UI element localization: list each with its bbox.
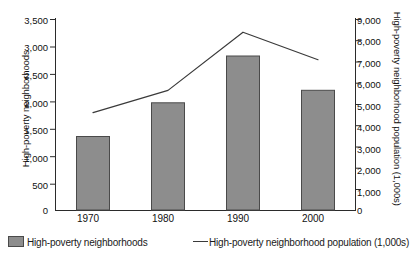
legend-line-icon: [193, 241, 208, 242]
bar-1970: [77, 137, 110, 211]
line-series: [93, 32, 318, 112]
legend-item-bars: High-poverty neighborhoods: [8, 236, 147, 248]
legend-swatch-icon: [8, 236, 24, 247]
y-axis-left-ticks: [50, 20, 55, 185]
bar-1980: [152, 103, 185, 210]
bar-2000: [302, 90, 335, 210]
bar-series: [77, 56, 335, 210]
bar-1990: [227, 56, 260, 210]
legend-label-line: High-poverty neighborhood population (1,…: [209, 237, 409, 248]
legend-item-line: High-poverty neighborhood population (1,…: [193, 237, 409, 248]
chart-legend: High-poverty neighborhoods High-poverty …: [8, 236, 412, 252]
legend-label-bars: High-poverty neighborhoods: [27, 237, 147, 248]
chart-container: High-poverty neighborhoods High-poverty …: [0, 0, 416, 260]
y-axis-right-ticks: [356, 20, 361, 190]
plot-area: [0, 0, 416, 260]
